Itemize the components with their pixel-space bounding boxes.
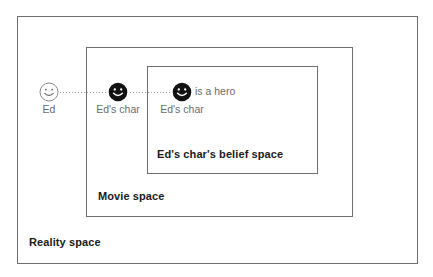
connector-ed-to-movie-char <box>60 92 108 93</box>
smiley-face-outline-icon <box>39 82 59 102</box>
smiley-face-solid-icon <box>172 82 192 102</box>
agent-eds-char-belief-label: Ed's char <box>160 103 203 115</box>
belief-space-label: Ed's char's belief space <box>157 148 283 160</box>
agent-ed: Ed <box>39 82 59 102</box>
agent-eds-char-movie-label: Ed's char <box>96 103 139 115</box>
agent-eds-char-movie: Ed's char <box>108 82 128 102</box>
agent-eds-char-belief: Ed's char <box>172 82 192 102</box>
connector-movie-char-to-belief-char <box>130 92 172 93</box>
agent-ed-label: Ed <box>43 103 56 115</box>
movie-space-label: Movie space <box>98 190 165 202</box>
reality-space-label: Reality space <box>29 236 101 248</box>
smiley-face-solid-icon <box>108 82 128 102</box>
belief-proposition-text: is a hero <box>195 85 235 97</box>
